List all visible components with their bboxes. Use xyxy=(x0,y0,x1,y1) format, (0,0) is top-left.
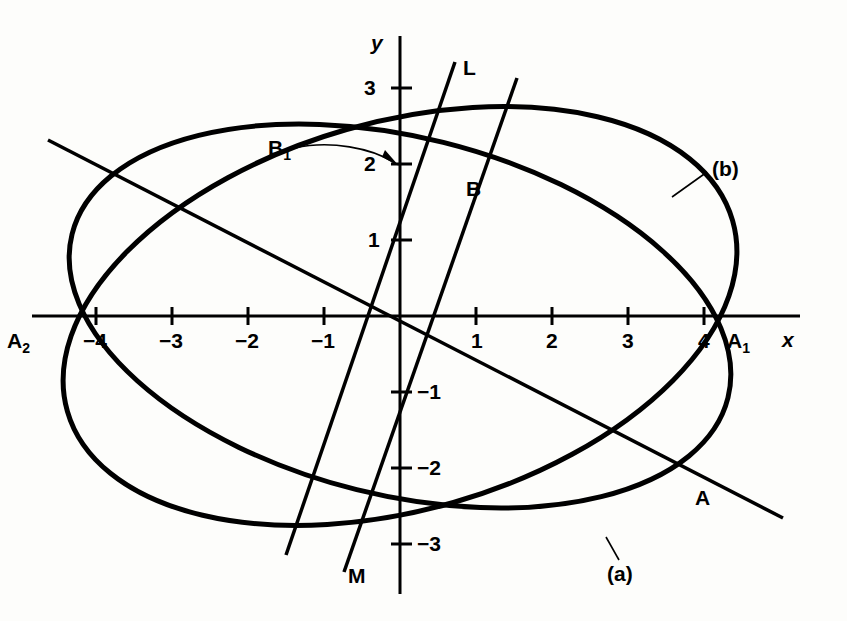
curve-label-a: (a) xyxy=(607,563,633,584)
figure-canvas xyxy=(0,0,847,621)
y-tick-label-2: 2 xyxy=(364,153,376,174)
y-tick-label-3: 3 xyxy=(364,77,376,98)
line-label-M: M xyxy=(348,565,366,586)
point-label-A1-base: A xyxy=(727,329,742,352)
b1-arrow-curve xyxy=(295,145,395,163)
x-tick-label--4: −4 xyxy=(83,330,107,351)
b1-arrowhead xyxy=(382,150,399,166)
point-label-B: B xyxy=(466,178,481,199)
curve-label-b: (b) xyxy=(712,158,739,179)
a-leader-line xyxy=(606,537,619,560)
point-label-A1: A1 xyxy=(727,330,750,355)
y-tick-label--3: −3 xyxy=(417,533,441,554)
y-tick-label-1: 1 xyxy=(368,229,380,250)
x-axis-label: x xyxy=(782,329,794,350)
x-tick-label--1: −1 xyxy=(311,330,335,351)
point-label-A: A xyxy=(695,487,710,508)
line-L xyxy=(286,62,455,555)
point-label-A2-base: A xyxy=(7,329,22,352)
y-tick-label--2: −2 xyxy=(417,457,441,478)
b-leader-line xyxy=(672,172,707,197)
point-label-B1-base: B xyxy=(268,136,283,159)
point-label-B1: B1 xyxy=(268,137,291,162)
x-tick-label-3: 3 xyxy=(622,330,634,351)
x-tick-label--3: −3 xyxy=(159,330,183,351)
point-label-A2: A2 xyxy=(7,330,30,355)
point-label-B1-subscript: 1 xyxy=(283,147,291,163)
x-tick-label-2: 2 xyxy=(546,330,558,351)
x-tick-label--2: −2 xyxy=(235,330,259,351)
x-tick-label-4: 4 xyxy=(698,330,710,351)
point-label-A1-subscript: 1 xyxy=(742,340,750,356)
geometry-figure: y x −4 −3 −2 −1 1 2 3 4 3 2 1 −1 −2 −3 A… xyxy=(0,0,847,621)
y-axis-label: y xyxy=(371,32,383,53)
point-label-A2-subscript: 2 xyxy=(22,340,30,356)
x-tick-label-1: 1 xyxy=(471,330,483,351)
line-label-L: L xyxy=(463,57,476,78)
y-tick-label--1: −1 xyxy=(417,381,441,402)
